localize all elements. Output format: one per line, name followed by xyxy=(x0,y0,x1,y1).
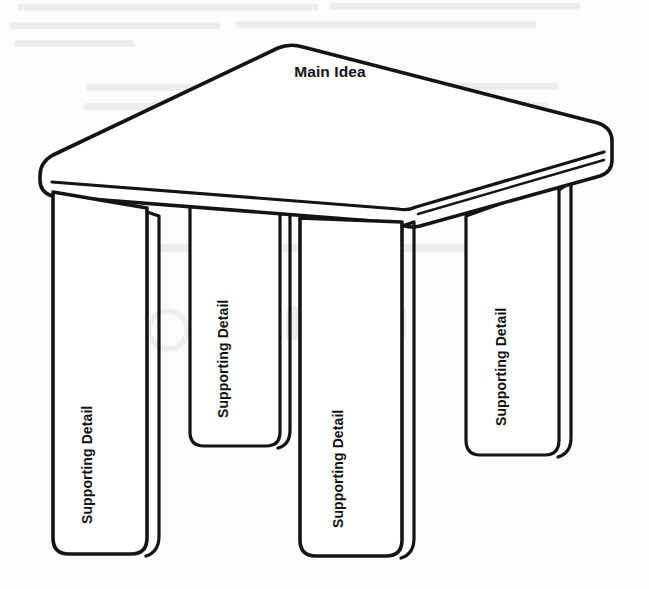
leg-front-left: Supporting Detail xyxy=(53,192,159,556)
leg-label-rear-left: Supporting Detail xyxy=(215,300,231,418)
leg-front-right: Supporting Detail xyxy=(300,218,414,558)
main-idea-label: Main Idea xyxy=(294,63,366,80)
leg-rear-left: Supporting Detail xyxy=(178,202,290,448)
leg-label-rear-right: Supporting Detail xyxy=(493,308,509,426)
leg-label-front-left: Supporting Detail xyxy=(79,406,95,524)
diagram-canvas: Supporting Detail Supporting Detail Main… xyxy=(0,0,649,589)
table-diagram: Supporting Detail Supporting Detail Main… xyxy=(0,0,649,589)
leg-rear-right: Supporting Detail xyxy=(466,182,571,457)
leg-label-front-right: Supporting Detail xyxy=(330,410,346,528)
